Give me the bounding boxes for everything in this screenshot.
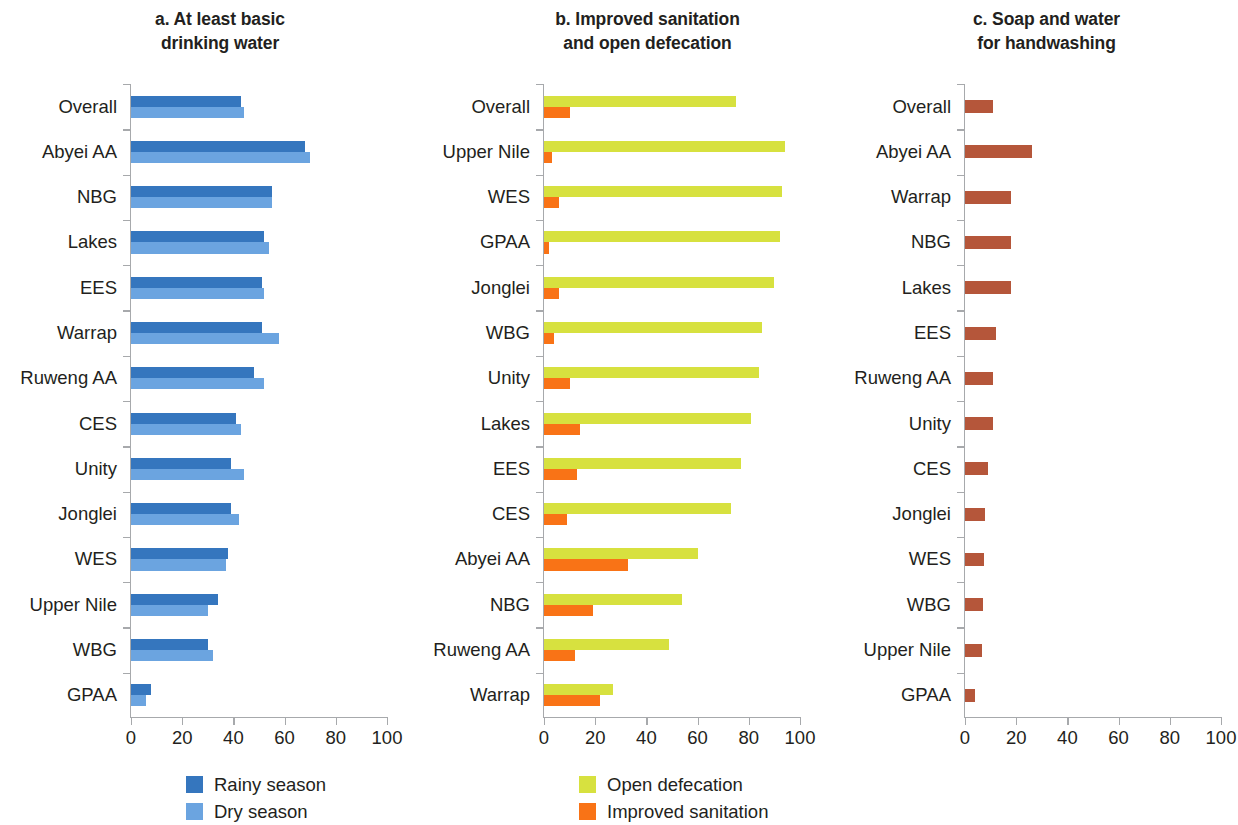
x-axis-tick bbox=[1016, 718, 1017, 725]
bar-open-defecation bbox=[544, 639, 669, 650]
bar-open-defecation bbox=[544, 96, 736, 107]
bar-improved-sanitation bbox=[544, 107, 570, 118]
bar-improved-sanitation bbox=[544, 333, 554, 344]
x-axis-tick bbox=[544, 718, 545, 725]
bar-row: Lakes bbox=[131, 220, 387, 265]
y-axis-tick bbox=[957, 492, 964, 493]
category-label: Warrap bbox=[891, 186, 951, 208]
category-label: Ruweng AA bbox=[854, 367, 951, 389]
bar-row: Abyei AA bbox=[131, 129, 387, 174]
category-label: WBG bbox=[907, 594, 951, 616]
x-axis-tick-label: 20 bbox=[585, 727, 606, 749]
legend-label: Improved sanitation bbox=[607, 801, 768, 823]
y-axis-tick bbox=[536, 446, 543, 447]
x-axis-tick-label: 0 bbox=[960, 727, 970, 749]
panel-a-drinking-water: a. At least basic drinking water Overall… bbox=[0, 0, 440, 821]
category-label: Jonglei bbox=[892, 503, 951, 525]
panel-b-bar-rows: OverallUpper NileWESGPAAJongleiWBGUnityL… bbox=[544, 84, 800, 718]
bar-dry-season bbox=[131, 197, 272, 208]
bar-row: Upper Nile bbox=[131, 582, 387, 627]
bar-row: WES bbox=[544, 175, 800, 220]
bar-dry-season bbox=[131, 107, 244, 118]
panel-a-bar-rows: OverallAbyei AANBGLakesEESWarrapRuweng A… bbox=[131, 84, 387, 718]
bar-row: Overall bbox=[131, 84, 387, 129]
x-axis-tick bbox=[233, 718, 234, 725]
bar-row: Lakes bbox=[965, 265, 1221, 310]
x-axis-tick bbox=[1221, 718, 1222, 725]
bar-row: WBG bbox=[131, 627, 387, 672]
y-axis-tick bbox=[536, 401, 543, 402]
bar-row: Jonglei bbox=[544, 265, 800, 310]
x-axis-tick bbox=[749, 718, 750, 725]
y-axis-tick bbox=[123, 220, 130, 221]
panel-c-handwashing: c. Soap and water for handwashing Overal… bbox=[855, 0, 1238, 821]
bar-improved-sanitation bbox=[544, 197, 559, 208]
y-axis-tick bbox=[123, 310, 130, 311]
y-axis-tick bbox=[957, 446, 964, 447]
y-axis-tick bbox=[536, 492, 543, 493]
legend-item: Improved sanitation bbox=[579, 798, 768, 825]
y-axis-tick bbox=[957, 129, 964, 130]
bar-dry-season bbox=[131, 333, 279, 344]
y-axis-tick bbox=[957, 582, 964, 583]
bar-row: Upper Nile bbox=[544, 129, 800, 174]
category-label: WES bbox=[909, 548, 951, 570]
bar-soap-and-water-for-handwashing bbox=[965, 508, 985, 521]
category-label: EES bbox=[493, 458, 530, 480]
bar-row: Unity bbox=[131, 446, 387, 491]
bar-open-defecation bbox=[544, 231, 780, 242]
bar-dry-season bbox=[131, 152, 310, 163]
x-axis-tick-label: 40 bbox=[636, 727, 657, 749]
y-axis-tick bbox=[123, 265, 130, 266]
panel-a-legend: Rainy seasonDry season bbox=[186, 771, 326, 825]
panel-a-title-line1: a. At least basic bbox=[0, 8, 440, 32]
y-axis-tick bbox=[957, 175, 964, 176]
bar-soap-and-water-for-handwashing bbox=[965, 236, 1011, 249]
x-axis-tick-label: 100 bbox=[1206, 727, 1237, 749]
bar-soap-and-water-for-handwashing bbox=[965, 145, 1032, 158]
bar-row: Jonglei bbox=[131, 492, 387, 537]
bar-row: Ruweng AA bbox=[131, 356, 387, 401]
bar-dry-season bbox=[131, 424, 241, 435]
y-axis-tick bbox=[123, 673, 130, 674]
panel-b-legend: Open defecationImproved sanitation bbox=[579, 771, 768, 825]
panel-c-plot: OverallAbyei AAWarrapNBGLakesEESRuweng A… bbox=[965, 84, 1221, 718]
bar-soap-and-water-for-handwashing bbox=[965, 644, 982, 657]
bar-row: WBG bbox=[965, 582, 1221, 627]
y-axis-tick bbox=[957, 220, 964, 221]
panel-b-plot: OverallUpper NileWESGPAAJongleiWBGUnityL… bbox=[544, 84, 800, 718]
bar-improved-sanitation bbox=[544, 242, 549, 253]
category-label: Unity bbox=[909, 413, 951, 435]
bar-row: CES bbox=[544, 492, 800, 537]
x-axis-tick bbox=[646, 718, 647, 725]
bar-row: WES bbox=[965, 537, 1221, 582]
category-label: Abyei AA bbox=[455, 548, 530, 570]
panel-b-title-line2: and open defecation bbox=[440, 32, 855, 56]
x-axis-tick bbox=[1170, 718, 1171, 725]
bar-rainy-season bbox=[131, 367, 254, 378]
bar-rainy-season bbox=[131, 186, 272, 197]
y-axis-tick bbox=[536, 175, 543, 176]
bar-open-defecation bbox=[544, 684, 613, 695]
bar-rainy-season bbox=[131, 639, 208, 650]
panel-a-plot: OverallAbyei AANBGLakesEESWarrapRuweng A… bbox=[131, 84, 387, 718]
bar-improved-sanitation bbox=[544, 559, 628, 570]
y-axis-tick bbox=[123, 537, 130, 538]
bar-row: CES bbox=[965, 446, 1221, 491]
category-label: EES bbox=[80, 277, 117, 299]
category-label: Upper Nile bbox=[443, 141, 530, 163]
legend-swatch-icon bbox=[579, 776, 596, 793]
category-label: Upper Nile bbox=[30, 594, 117, 616]
bar-soap-and-water-for-handwashing bbox=[965, 191, 1011, 204]
category-label: Warrap bbox=[57, 322, 117, 344]
bar-dry-season bbox=[131, 469, 244, 480]
bar-row: CES bbox=[131, 401, 387, 446]
panel-c-title-line2: for handwashing bbox=[855, 32, 1238, 56]
category-label: WES bbox=[75, 548, 117, 570]
x-axis-tick-label: 100 bbox=[372, 727, 403, 749]
bar-improved-sanitation bbox=[544, 695, 600, 706]
y-axis-tick bbox=[536, 582, 543, 583]
legend-item: Dry season bbox=[186, 798, 326, 825]
panel-a-title: a. At least basic drinking water bbox=[0, 8, 440, 55]
